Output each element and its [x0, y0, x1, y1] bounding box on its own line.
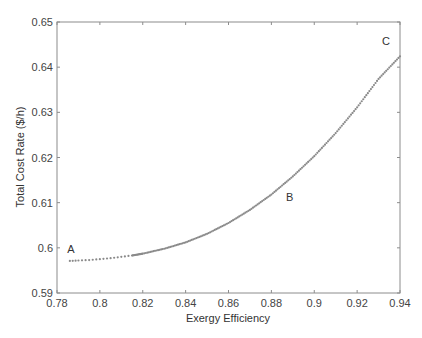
data-point [106, 257, 108, 259]
y-tick-label: 0.61 [32, 197, 53, 209]
data-point [377, 78, 379, 80]
data-point [382, 73, 384, 75]
data-point [109, 257, 111, 259]
data-point [321, 147, 323, 149]
data-point [327, 140, 329, 142]
data-point [365, 94, 367, 96]
data-point [325, 142, 327, 144]
data-point [373, 84, 375, 86]
data-point [368, 90, 370, 92]
x-axis-label: Exergy Efficiency [186, 312, 271, 324]
x-tick-label: 0.92 [346, 297, 367, 309]
data-point [332, 135, 334, 137]
data-point [364, 96, 366, 98]
y-tick-label: 0.65 [32, 16, 53, 28]
data-point [102, 258, 104, 260]
plot-frame [57, 22, 400, 293]
data-point [81, 259, 83, 261]
data-point [347, 117, 349, 119]
data-point [351, 112, 353, 114]
data-point [385, 70, 387, 72]
ticks: 0.780.80.820.840.860.880.90.920.940.590.… [32, 16, 411, 309]
x-tick-label: 0.94 [389, 297, 410, 309]
x-tick-label: 0.82 [132, 297, 153, 309]
x-tick-label: 0.84 [175, 297, 196, 309]
data-point [324, 144, 326, 146]
data-point [367, 92, 369, 94]
data-point [95, 258, 97, 260]
data-point [333, 134, 335, 136]
y-tick-label: 0.62 [32, 152, 53, 164]
data-point [315, 153, 317, 155]
data-point [397, 57, 399, 59]
data-point [359, 102, 361, 104]
data-point [74, 260, 76, 262]
data-point [394, 60, 396, 62]
data-point [371, 86, 373, 88]
data-point [124, 255, 126, 257]
data-point [328, 139, 330, 141]
data-point [72, 260, 74, 262]
data-point [338, 128, 340, 130]
x-tick-label: 0.86 [218, 297, 239, 309]
point-label-b: B [286, 191, 293, 203]
data-point [318, 150, 320, 152]
point-label-a: A [67, 243, 75, 255]
data-point [348, 115, 350, 117]
data-point [393, 62, 395, 64]
x-tick-label: 0.9 [307, 297, 322, 309]
data-point [92, 259, 94, 261]
data-point [354, 108, 356, 110]
axes [57, 22, 400, 293]
data-point [387, 68, 389, 70]
data-point [356, 106, 358, 108]
data-point [88, 259, 90, 261]
data-point [84, 259, 86, 261]
y-axis-label: Total Cost Rate ($/h) [14, 107, 26, 208]
data-point [353, 110, 355, 112]
data-point [336, 130, 338, 132]
data-point [390, 65, 392, 67]
point-label-c: C [382, 35, 390, 47]
data-point [399, 55, 401, 57]
data-point [374, 82, 376, 84]
data-point [77, 259, 79, 261]
data-point [341, 125, 343, 127]
data-points [69, 55, 401, 262]
data-point [384, 71, 386, 73]
y-tick-label: 0.59 [32, 287, 53, 299]
x-tick-label: 0.8 [92, 297, 107, 309]
data-point [335, 132, 337, 134]
data-point [113, 257, 115, 259]
y-tick-label: 0.64 [32, 61, 53, 73]
data-point [319, 148, 321, 150]
data-point [362, 98, 364, 100]
pareto-chart: 0.780.80.820.840.860.880.90.920.940.590.… [0, 0, 422, 338]
data-point [339, 126, 341, 128]
data-point [370, 88, 372, 90]
data-point [127, 255, 129, 257]
data-point [330, 137, 332, 139]
data-point [391, 63, 393, 65]
data-point [99, 258, 101, 260]
data-point [69, 260, 71, 262]
data-point [381, 75, 383, 77]
data-point [120, 256, 122, 258]
data-point [344, 121, 346, 123]
data-point [396, 58, 398, 60]
y-tick-label: 0.6 [38, 242, 53, 254]
data-point [316, 152, 318, 154]
data-point [358, 104, 360, 106]
x-tick-label: 0.88 [261, 297, 282, 309]
data-point [350, 114, 352, 116]
y-tick-label: 0.63 [32, 106, 53, 118]
data-point [342, 123, 344, 125]
data-point [313, 155, 315, 157]
data-point [376, 80, 378, 82]
data-point [388, 67, 390, 69]
data-point [345, 119, 347, 121]
data-point [379, 76, 381, 78]
data-point [361, 100, 363, 102]
data-point [117, 256, 119, 258]
data-point [322, 145, 324, 147]
